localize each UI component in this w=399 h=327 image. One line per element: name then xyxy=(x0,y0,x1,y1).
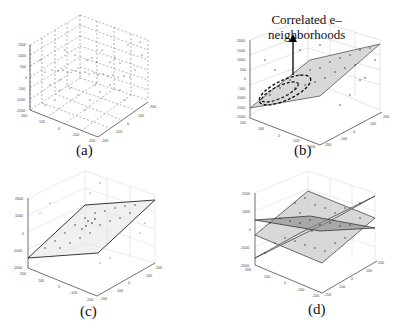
svg-text:-200: -200 xyxy=(86,298,93,302)
svg-text:200: 200 xyxy=(378,261,384,265)
svg-text:-1000: -1000 xyxy=(13,249,22,253)
panel-d: 2000 1000 0 -1000 -2000 200 100 0 -100 -… xyxy=(200,163,399,327)
panel-d-plot: 2000 1000 0 -1000 -2000 200 100 0 -100 -… xyxy=(200,163,399,327)
svg-text:-1000: -1000 xyxy=(16,98,25,102)
svg-text:-200: -200 xyxy=(101,139,108,143)
z-axis-ticks: 2000 1000 0 -1000 -2000 xyxy=(240,192,251,268)
caption-a: (a) xyxy=(76,142,93,159)
panel-b: 2000 1500 1000 500 0 -500 -1000 -1500 -2… xyxy=(200,0,399,163)
svg-text:100: 100 xyxy=(138,114,144,118)
svg-text:-100: -100 xyxy=(116,289,123,293)
svg-text:0: 0 xyxy=(284,281,286,285)
svg-text:2000: 2000 xyxy=(242,192,250,196)
svg-text:-200: -200 xyxy=(324,293,331,297)
y-axis-ticks: 200 100 0 -100 -200 xyxy=(100,266,162,301)
svg-text:100: 100 xyxy=(258,127,264,131)
svg-text:0: 0 xyxy=(278,134,280,138)
svg-text:-1500: -1500 xyxy=(236,106,245,110)
svg-text:200: 200 xyxy=(150,105,156,109)
svg-text:100: 100 xyxy=(264,275,270,279)
svg-text:-2000: -2000 xyxy=(13,266,22,270)
svg-text:-100: -100 xyxy=(340,137,347,141)
svg-text:500: 500 xyxy=(240,68,246,72)
y-axis-ticks: 200 100 0 -100 -200 xyxy=(324,261,384,297)
svg-text:-100: -100 xyxy=(115,130,122,134)
svg-text:200: 200 xyxy=(383,115,389,119)
svg-text:-500: -500 xyxy=(238,87,245,91)
z-axis-ticks: 1500 1000 500 0 -500 -1000 -1500 xyxy=(16,43,27,113)
svg-text:-100: -100 xyxy=(72,133,79,137)
svg-text:-1000: -1000 xyxy=(240,246,249,250)
svg-text:1000: 1000 xyxy=(242,210,250,214)
svg-text:100: 100 xyxy=(370,122,376,126)
annotation-line-1: Correlated e– xyxy=(268,12,345,27)
z-axis-ticks: 2000 1000 0 -1000 -2000 xyxy=(13,197,24,270)
svg-text:-100: -100 xyxy=(70,291,77,295)
svg-text:-200: -200 xyxy=(100,297,107,301)
svg-text:-200: -200 xyxy=(312,294,319,298)
fitted-plane xyxy=(28,200,155,258)
caption-b: (b) xyxy=(294,142,312,159)
panel-a: 1500 1000 500 0 -500 -1000 -1500 200 100… xyxy=(0,0,200,163)
svg-text:-200: -200 xyxy=(324,143,331,147)
x-axis-ticks: 200 100 0 -100 -200 xyxy=(245,268,319,298)
svg-text:-2000: -2000 xyxy=(236,115,245,119)
caption-d: (d) xyxy=(308,301,326,318)
svg-text:100: 100 xyxy=(38,279,44,283)
svg-text:0: 0 xyxy=(58,285,60,289)
svg-text:200: 200 xyxy=(240,121,246,125)
z-axis-ticks: 2000 1500 1000 500 0 -500 -1000 -1500 -2… xyxy=(236,39,246,119)
svg-text:100: 100 xyxy=(39,120,45,124)
svg-text:500: 500 xyxy=(20,65,26,69)
svg-text:-500: -500 xyxy=(18,87,25,91)
svg-text:200: 200 xyxy=(245,268,251,272)
svg-text:1000: 1000 xyxy=(18,54,26,58)
caption-c: (c) xyxy=(80,303,97,320)
svg-text:200: 200 xyxy=(156,266,162,270)
svg-text:2000: 2000 xyxy=(237,39,245,43)
svg-text:0: 0 xyxy=(244,77,246,81)
fitted-plane xyxy=(250,44,380,108)
panel-c: 2000 1000 0 -1000 -2000 200 100 0 -100 -… xyxy=(0,163,200,327)
svg-text:0: 0 xyxy=(25,76,27,80)
svg-text:0: 0 xyxy=(353,130,355,134)
svg-text:-100: -100 xyxy=(338,285,345,289)
svg-text:1500: 1500 xyxy=(18,43,26,47)
svg-text:0: 0 xyxy=(249,228,251,232)
svg-text:0: 0 xyxy=(351,277,353,281)
panel-a-plot: 1500 1000 500 0 -500 -1000 -1500 200 100… xyxy=(0,0,200,163)
svg-text:200: 200 xyxy=(20,272,26,276)
correlated-e-neighborhoods-label: Correlated e– neighborhoods xyxy=(268,12,345,42)
x-axis-ticks: 200 100 0 -100 -200 xyxy=(20,272,93,302)
svg-text:200: 200 xyxy=(21,114,27,118)
y-axis-ticks: 200 100 0 -100 -200 xyxy=(101,105,156,143)
svg-text:1500: 1500 xyxy=(237,49,245,53)
annotation-line-2: neighborhoods xyxy=(268,27,345,42)
svg-text:-1000: -1000 xyxy=(236,96,245,100)
svg-text:2000: 2000 xyxy=(15,197,23,201)
svg-text:0: 0 xyxy=(127,122,129,126)
svg-text:1000: 1000 xyxy=(15,214,23,218)
svg-text:0: 0 xyxy=(58,127,60,131)
y-axis-ticks: 200 100 0 -100 -200 xyxy=(324,115,389,147)
svg-text:-100: -100 xyxy=(297,288,304,292)
svg-text:1000: 1000 xyxy=(237,58,245,62)
svg-text:0: 0 xyxy=(128,281,130,285)
panel-c-plot: 2000 1000 0 -1000 -2000 200 100 0 -100 -… xyxy=(0,163,200,327)
svg-text:0: 0 xyxy=(22,232,24,236)
svg-text:100: 100 xyxy=(366,269,372,273)
svg-text:100: 100 xyxy=(146,274,152,278)
svg-text:-1500: -1500 xyxy=(16,109,25,113)
